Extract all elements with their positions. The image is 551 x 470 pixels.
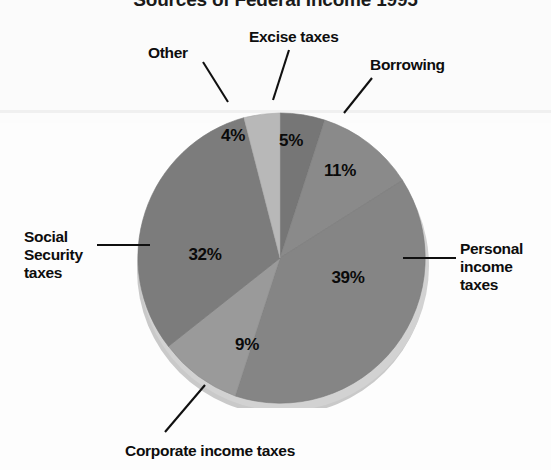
- callout-excise-taxes: Excise taxes: [249, 28, 338, 46]
- callout-personal-income-taxes: Personal income taxes: [460, 240, 523, 294]
- leader-line-other: [203, 62, 228, 102]
- leader-line-excise: [273, 50, 289, 100]
- leader-line-borrowing: [344, 78, 372, 113]
- leader-line-corporate: [165, 385, 205, 432]
- callout-corporate-income-taxes: Corporate income taxes: [125, 442, 295, 460]
- callout-other: Other: [148, 44, 188, 62]
- chart-page: Sources of Federal Income 1995: [0, 0, 551, 470]
- callout-borrowing: Borrowing: [370, 56, 445, 74]
- callout-social-security-taxes: Social Security taxes: [24, 228, 83, 282]
